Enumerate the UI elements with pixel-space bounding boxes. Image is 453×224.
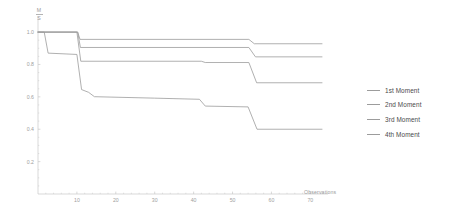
x-tick-label: 10 bbox=[74, 197, 80, 203]
y-axis-label-denominator: S bbox=[28, 16, 50, 21]
legend-line-icon bbox=[367, 90, 380, 91]
chart-root: 102030405060700.20.40.60.81.0 M S Observ… bbox=[0, 0, 453, 224]
legend-item[interactable]: 3rd Moment bbox=[367, 112, 453, 127]
chart-legend: 1st Moment2nd Moment3rd Moment4th Moment bbox=[367, 83, 453, 141]
legend-line-icon bbox=[367, 119, 380, 120]
y-axis-label: M S bbox=[28, 8, 50, 22]
legend-item-label: 4th Moment bbox=[385, 131, 420, 138]
legend-line-icon bbox=[367, 134, 380, 135]
x-tick-label: 50 bbox=[230, 197, 236, 203]
y-tick-label: 0.2 bbox=[27, 159, 34, 165]
legend-item-label: 3rd Moment bbox=[385, 116, 420, 123]
x-tick-label: 60 bbox=[269, 197, 275, 203]
y-tick-label: 0.8 bbox=[27, 61, 34, 67]
x-tick-label: 70 bbox=[307, 197, 313, 203]
series-line-2 bbox=[38, 32, 322, 57]
x-axis-label: Observations bbox=[304, 189, 336, 195]
legend-item-label: 2nd Moment bbox=[385, 101, 422, 108]
x-tick-label: 30 bbox=[152, 197, 158, 203]
y-axis-label-numerator: M bbox=[28, 8, 50, 13]
x-tick-label: 40 bbox=[191, 197, 197, 203]
legend-line-icon bbox=[367, 104, 380, 105]
y-tick-label: 0.6 bbox=[27, 94, 34, 100]
x-tick-label: 20 bbox=[113, 197, 119, 203]
legend-item[interactable]: 4th Moment bbox=[367, 127, 453, 142]
legend-item-label: 1st Moment bbox=[385, 87, 419, 94]
y-tick-label: 0.4 bbox=[27, 126, 34, 132]
legend-item[interactable]: 2nd Moment bbox=[367, 98, 453, 113]
legend-item[interactable]: 1st Moment bbox=[367, 83, 453, 98]
series-line-1 bbox=[38, 32, 322, 44]
plot-area: 102030405060700.20.40.60.81.0 bbox=[0, 0, 340, 224]
y-tick-label: 1.0 bbox=[27, 29, 34, 35]
